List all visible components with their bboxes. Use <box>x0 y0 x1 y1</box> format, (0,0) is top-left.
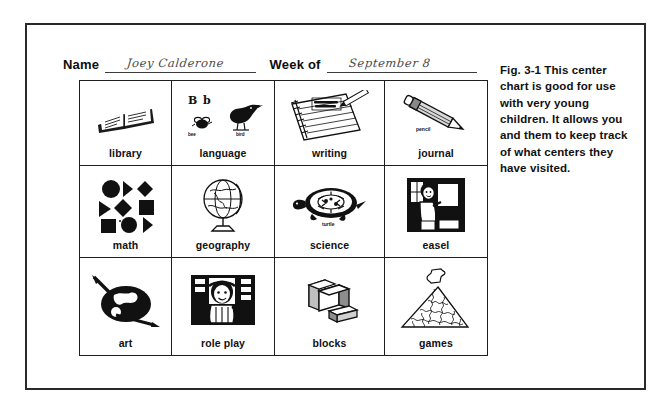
week-handwritten-value: September 8 <box>348 56 431 70</box>
chart-cell-geography[interactable]: geography <box>172 166 275 258</box>
open-book-icon <box>82 84 169 148</box>
child-dress-up-icon <box>174 261 272 338</box>
week-of-input-field[interactable]: September 8 <box>327 53 477 73</box>
chart-cell-math[interactable]: math <box>80 166 172 258</box>
svg-text:b: b <box>203 94 211 107</box>
turtle-icon: turtle <box>277 169 382 240</box>
name-field-label: Name <box>63 57 99 73</box>
chart-cell-journal[interactable]: pencil journal <box>385 81 487 166</box>
chart-cell-label: easel <box>423 240 450 255</box>
figure-caption: Fig. 3-1 This center chart is good for u… <box>500 62 635 176</box>
svg-text:B: B <box>188 94 197 107</box>
chart-cell-label: writing <box>312 148 347 163</box>
chart-cell-label: role play <box>201 338 245 353</box>
child-at-easel-icon <box>387 169 485 240</box>
svg-text:bird: bird <box>236 132 245 137</box>
chart-cell-label: geography <box>196 240 251 255</box>
form-header: Name Joey Calderone Week of September 8 <box>63 49 481 73</box>
chart-cell-label: art <box>119 338 133 353</box>
svg-text:pencil: pencil <box>416 126 431 132</box>
chart-cell-library[interactable]: library <box>80 81 172 166</box>
paint-palette-icon <box>82 261 169 338</box>
chart-cell-writing[interactable]: writing <box>275 81 385 166</box>
chart-cell-label: science <box>310 240 349 255</box>
week-of-field-label: Week of <box>270 57 321 73</box>
blocks-icon <box>277 261 382 338</box>
chart-cell-games[interactable]: games <box>385 258 487 355</box>
svg-text:turtle: turtle <box>322 221 335 227</box>
notepad-pencil-icon <box>277 84 382 148</box>
name-handwritten-value: Joey Calderone <box>126 56 225 70</box>
letters-bee-bird-icon: B b bee <box>174 84 272 148</box>
chart-cell-label: language <box>200 148 247 163</box>
globe-icon <box>174 169 272 240</box>
chart-cell-art[interactable]: art <box>80 258 172 355</box>
chart-cell-label: math <box>113 240 139 255</box>
center-chart-grid: library B b bee <box>79 80 488 356</box>
chart-cell-blocks[interactable]: blocks <box>275 258 385 355</box>
name-input-field[interactable]: Joey Calderone <box>105 53 255 73</box>
chart-cell-label: blocks <box>313 338 347 353</box>
chart-cell-language[interactable]: B b bee <box>172 81 275 166</box>
chart-cell-easel[interactable]: easel <box>385 166 487 258</box>
chart-cell-label: library <box>109 148 142 163</box>
chart-cell-role-play[interactable]: role play <box>172 258 275 355</box>
chart-cell-label: games <box>419 338 453 353</box>
shapes-icon <box>82 169 169 240</box>
pencil-icon: pencil <box>387 84 485 148</box>
chart-cell-science[interactable]: turtle science <box>275 166 385 258</box>
jigsaw-puzzle-icon <box>387 261 485 338</box>
svg-text:bee: bee <box>188 132 196 137</box>
chart-cell-label: journal <box>418 148 454 163</box>
